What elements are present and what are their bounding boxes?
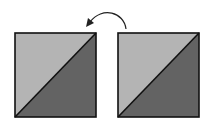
diagram-canvas [0,0,209,123]
curved-arrow-icon [86,13,126,29]
left-half-square-triangle-block [15,33,96,117]
right-half-square-triangle-block [118,33,199,117]
